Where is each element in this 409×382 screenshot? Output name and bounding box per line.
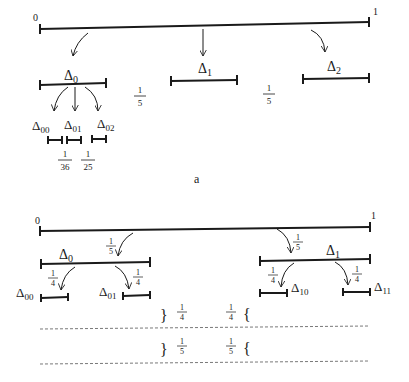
svg-text:5: 5 <box>267 96 272 106</box>
svg-text:1: 1 <box>138 85 143 95</box>
delta2-label: Δ2 <box>327 59 341 76</box>
arrow-to-delta01-b <box>115 266 129 289</box>
arrow-to-delta11-b <box>335 262 348 285</box>
svg-text:1: 1 <box>180 303 184 312</box>
endpoint-0-label-b: 0 <box>35 215 40 226</box>
delta00-label: Δ00 <box>32 118 50 135</box>
svg-text:1: 1 <box>136 268 140 277</box>
arrow-fraction-d11: 1 4 <box>352 265 362 284</box>
right-brace-icon: } <box>160 307 168 324</box>
delta0-label-b: Δ0 <box>59 247 73 264</box>
svg-text:1: 1 <box>229 337 233 346</box>
arrow-fraction-d00: 1 4 <box>48 269 58 288</box>
figure-a: 0 1 Δ0 Δ1 Δ2 <box>32 6 378 186</box>
sub-interval-segments-a <box>48 135 106 144</box>
svg-text:1: 1 <box>271 266 275 275</box>
svg-text:5: 5 <box>229 347 233 356</box>
delta10-label-b: Δ10 <box>291 280 309 297</box>
svg-text:4: 4 <box>180 313 184 322</box>
unit-interval-a <box>40 17 369 34</box>
sub-gap-fraction-1: 1 36 <box>58 149 72 172</box>
svg-text:5: 5 <box>180 347 184 356</box>
brace-row-1: } 1 4 1 4 { <box>160 303 251 324</box>
svg-text:4: 4 <box>271 276 275 285</box>
interval-delta0-a: Δ0 <box>40 68 106 90</box>
gap-fraction-1: 1 5 <box>134 85 146 108</box>
svg-text:1: 1 <box>51 269 55 278</box>
delta1-label-b: Δ1 <box>326 243 340 260</box>
right-brace-icon: } <box>160 341 168 358</box>
interval-delta1-a: Δ1 <box>171 61 237 86</box>
arrow-fraction-d10: 1 4 <box>268 266 278 285</box>
svg-text:1: 1 <box>296 233 300 242</box>
arrow-to-delta2 <box>311 30 325 52</box>
svg-text:1: 1 <box>180 337 184 346</box>
delta1-label: Δ1 <box>198 61 212 78</box>
svg-text:25: 25 <box>84 162 94 172</box>
sub-interval-segments-b <box>41 288 370 302</box>
interval-delta1-b: Δ1 <box>260 243 370 266</box>
arrow-to-delta1-b <box>277 229 291 253</box>
delta01-label-b: Δ01 <box>99 284 116 301</box>
dashed-separator-2 <box>40 361 370 364</box>
endpoint-0-label: 0 <box>33 12 38 23</box>
delta01-label: Δ01 <box>64 117 81 134</box>
unit-interval-b <box>40 222 370 236</box>
svg-text:1: 1 <box>63 149 68 159</box>
svg-text:1: 1 <box>267 83 272 93</box>
svg-text:1: 1 <box>355 265 359 274</box>
arrow-to-delta00-b <box>61 267 75 290</box>
arrows-level1-a <box>73 29 325 56</box>
figure-b: 0 1 1 5 1 5 Δ0 Δ1 <box>16 210 391 364</box>
interval-subdivision-diagram: 0 1 Δ0 Δ1 Δ2 <box>0 0 409 382</box>
dashed-separator-1 <box>40 326 370 329</box>
arrows-level2-a <box>54 87 98 111</box>
arrow-fraction-d0: 1 5 <box>106 237 116 256</box>
svg-text:1: 1 <box>229 303 233 312</box>
gap-fraction-2: 1 5 <box>263 83 275 106</box>
delta00-label-b: Δ00 <box>16 285 34 302</box>
svg-text:5: 5 <box>296 243 300 252</box>
delta0-label: Δ0 <box>64 68 78 85</box>
arrow-to-delta02 <box>85 87 98 111</box>
left-brace-icon: { <box>243 340 251 357</box>
svg-text:4: 4 <box>355 275 359 284</box>
left-brace-icon: { <box>243 306 251 323</box>
interval-delta0-b: Δ0 <box>41 247 150 269</box>
delta02-label: Δ02 <box>97 116 114 133</box>
interval-delta2-a: Δ2 <box>303 59 369 84</box>
arrow-to-delta0-b <box>118 233 133 256</box>
svg-text:5: 5 <box>109 247 113 256</box>
arrows-level1-b <box>118 229 291 256</box>
svg-text:36: 36 <box>61 162 71 172</box>
svg-text:1: 1 <box>109 237 113 246</box>
svg-text:4: 4 <box>51 279 55 288</box>
svg-text:5: 5 <box>138 98 143 108</box>
figure-a-caption: a <box>194 172 200 186</box>
arrow-to-delta0 <box>73 33 88 56</box>
svg-text:4: 4 <box>229 313 233 322</box>
arrow-fraction-d1: 1 5 <box>293 233 303 252</box>
svg-text:1: 1 <box>86 149 91 159</box>
delta11-label-b: Δ11 <box>374 279 391 296</box>
arrow-fraction-d01: 1 4 <box>133 268 143 287</box>
endpoint-1-label: 1 <box>373 6 378 17</box>
brace-row-2: } 1 5 1 5 { <box>160 337 251 358</box>
svg-text:4: 4 <box>136 278 140 287</box>
endpoint-1-label-b: 1 <box>371 210 376 221</box>
arrow-to-delta00 <box>54 87 68 111</box>
sub-gap-fraction-2: 1 25 <box>81 149 95 172</box>
